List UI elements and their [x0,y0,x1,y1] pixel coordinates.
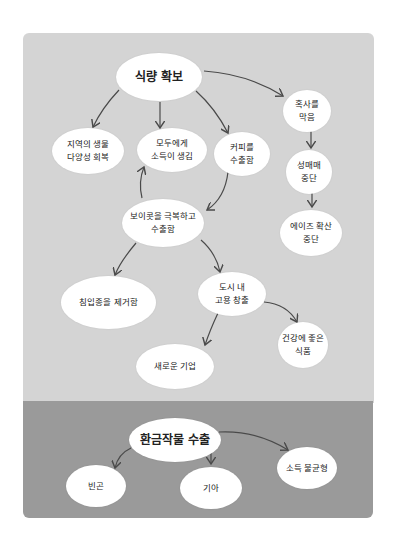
node-cash-crop-export: 환금작물 수출 [129,418,221,462]
node-invasive-species: 침입종을 제거함 [61,276,156,329]
node-urban-jobs: 도시 내 고용 창출 [198,272,266,316]
node-stop-aids: 에이즈 확산 중단 [280,210,342,256]
node-hunger: 기아 [180,467,242,509]
node-income-inequality: 소득 불균형 [277,447,337,489]
node-biodiversity: 지역의 생물 다양성 회복 [52,128,124,174]
node-new-company: 새로운 기업 [136,344,214,389]
node-stop-prostitution: 성매매 중단 [286,150,332,194]
node-food-security: 식량 확보 [116,53,202,101]
node-poverty: 빈곤 [66,465,126,507]
node-boycott-export: 보이콧을 극복하고 수출함 [122,199,204,247]
node-coffee-export: 커피를 수출함 [214,132,270,176]
node-prevent-abuse: 혹사를 막음 [283,90,331,132]
node-income: 모두에게 소득이 생김 [137,128,207,172]
node-healthy-food: 건강에 좋은 식품 [278,322,328,368]
